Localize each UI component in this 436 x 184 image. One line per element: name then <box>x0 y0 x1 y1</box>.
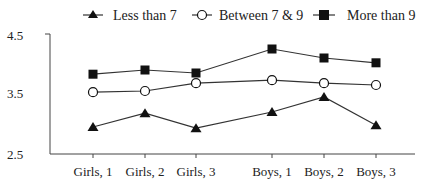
x-tick-label: Girls, 1 <box>74 164 113 179</box>
square-marker-icon <box>141 66 150 75</box>
circle-marker-icon <box>198 11 207 20</box>
legend-item-less-than-7: Less than 7 <box>83 8 177 23</box>
x-axis: Girls, 1Girls, 2Girls, 3Boys, 1Boys, 2Bo… <box>50 154 415 179</box>
legend: Less than 7 Between 7 & 9 More than 9 <box>83 8 415 23</box>
legend-label: Between 7 & 9 <box>219 8 303 23</box>
circle-marker-icon <box>89 88 98 97</box>
series-layer <box>88 45 382 133</box>
y-axis: 4.5 3.5 2.5 <box>7 28 50 162</box>
triangle-marker-icon <box>88 10 98 18</box>
y-tick-label: 3.5 <box>7 86 23 101</box>
square-marker-icon <box>372 58 381 67</box>
square-marker-icon <box>268 45 277 54</box>
x-tick-label: Girls, 2 <box>126 164 165 179</box>
square-marker-icon <box>319 10 329 20</box>
legend-label: More than 9 <box>347 8 415 23</box>
triangle-marker-icon <box>319 92 330 101</box>
x-tick-label: Girls, 3 <box>177 164 216 179</box>
x-tick-label: Boys, 3 <box>356 164 396 179</box>
square-marker-icon <box>320 54 329 63</box>
circle-marker-icon <box>372 81 381 90</box>
square-marker-icon <box>89 70 98 79</box>
series-more-than-9 <box>89 45 381 79</box>
triangle-marker-icon <box>140 108 151 117</box>
circle-marker-icon <box>320 79 329 88</box>
legend-label: Less than 7 <box>113 8 177 23</box>
series-between-7-9 <box>89 76 381 97</box>
circle-marker-icon <box>192 79 201 88</box>
square-marker-icon <box>192 69 201 78</box>
legend-item-more-than-9: More than 9 <box>313 8 415 23</box>
series-less-than-7 <box>88 92 382 132</box>
y-tick-label: 4.5 <box>7 28 23 43</box>
line-chart: Less than 7 Between 7 & 9 More than 9 4.… <box>0 0 436 184</box>
legend-item-between-7-9: Between 7 & 9 <box>192 8 303 23</box>
triangle-marker-icon <box>371 120 382 129</box>
x-tick-label: Boys, 1 <box>252 164 292 179</box>
circle-marker-icon <box>141 87 150 96</box>
circle-marker-icon <box>268 76 277 85</box>
x-tick-label: Boys, 2 <box>304 164 344 179</box>
y-tick-label: 2.5 <box>7 147 23 162</box>
